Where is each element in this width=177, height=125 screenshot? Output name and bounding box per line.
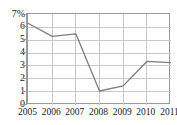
plot-area <box>27 13 170 104</box>
y-tick-mark <box>22 65 27 66</box>
x-tick-label: 2009 <box>113 106 132 118</box>
series-polyline <box>29 24 171 92</box>
x-tick-label: 2008 <box>89 106 108 118</box>
x-axis-tick-labels: 2005200620072008200920102011 <box>27 106 170 122</box>
y-tick-mark <box>22 26 27 27</box>
x-tick-label: 2005 <box>18 106 37 118</box>
y-tick-mark <box>22 78 27 79</box>
y-tick-mark <box>22 52 27 53</box>
x-tick-label: 2010 <box>136 106 155 118</box>
x-tick-label: 2011 <box>160 106 177 118</box>
y-tick-mark <box>22 14 27 15</box>
y-tick-mark <box>22 39 27 40</box>
data-series-line <box>28 14 171 105</box>
x-tick-label: 2007 <box>65 106 84 118</box>
line-chart-figure: 01234567% 2005200620072008200920102011 <box>0 0 177 125</box>
y-tick-mark <box>22 104 27 105</box>
y-tick-mark <box>22 91 27 92</box>
x-tick-label: 2006 <box>42 106 61 118</box>
